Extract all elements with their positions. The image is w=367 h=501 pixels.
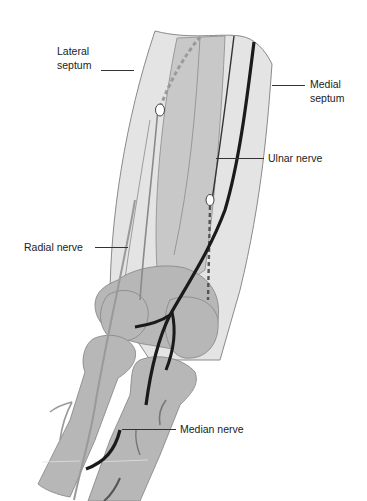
lateral-ring-marker [156,104,165,116]
label-lateral-septum-line1: Lateral [57,44,91,58]
label-radial-nerve: Radial nerve [24,240,83,254]
leader-lateral-septum [101,70,134,71]
leader-ulnar-nerve [216,158,264,159]
leader-medial-septum [272,85,305,86]
label-medial-septum: Medial septum [310,77,344,105]
leader-median-nerve [122,429,176,430]
label-medial-septum-line2: septum [310,91,344,105]
medial-ring-marker [206,195,214,206]
label-median-nerve: Median nerve [180,422,244,436]
label-ulnar-nerve: Ulnar nerve [268,151,322,165]
label-lateral-septum-line2: septum [57,58,91,72]
label-medial-septum-line1: Medial [310,77,344,91]
leader-radial-nerve [95,247,128,248]
label-lateral-septum: Lateral septum [57,44,91,72]
